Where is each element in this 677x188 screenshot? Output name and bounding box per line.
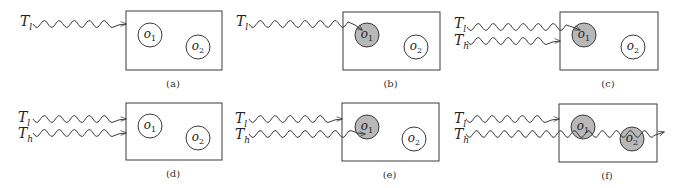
panel-caption-a: (a) — [166, 78, 180, 89]
object-label: o1 — [361, 27, 373, 43]
transaction-label: Th — [454, 126, 469, 145]
object-subscript: 1 — [151, 125, 156, 134]
transaction-label: Tl — [20, 13, 32, 32]
transaction-name: T — [454, 110, 463, 126]
object-subscript: 1 — [151, 34, 156, 43]
transaction-arrow-Th — [467, 38, 560, 45]
transaction-arrow-Tl — [33, 116, 126, 123]
transaction-subscript: h — [463, 135, 469, 145]
panel-caption-f: (f) — [601, 170, 613, 181]
transaction-subscript: l — [245, 22, 248, 32]
transaction-arrow-Th — [249, 131, 365, 138]
object-subscript: 2 — [634, 46, 639, 55]
transaction-name: T — [235, 126, 244, 142]
transaction-subscript: h — [27, 134, 33, 144]
transaction-name: T — [18, 109, 27, 125]
transaction-name: T — [235, 110, 244, 126]
object-label: o2 — [408, 131, 420, 147]
object-label: o2 — [626, 131, 638, 147]
object-label: o1 — [144, 27, 156, 43]
panel-caption-e: (e) — [383, 169, 397, 180]
object-subscript: 2 — [417, 46, 422, 55]
object-label: o2 — [192, 130, 204, 146]
object-label: o2 — [627, 39, 639, 55]
object-label: o1 — [144, 118, 156, 134]
panel-caption-b: (b) — [383, 78, 397, 89]
object-subscript: 2 — [199, 137, 204, 146]
object-subscript: 2 — [633, 138, 638, 147]
object-subscript: 1 — [585, 34, 590, 43]
object-subscript: 2 — [415, 138, 420, 147]
object-label: o1 — [577, 119, 589, 135]
transaction-label: Th — [454, 32, 469, 51]
transaction-arrow-Th — [33, 130, 126, 137]
transaction-arrow-Tl — [249, 116, 342, 123]
diagram-svg — [0, 0, 677, 188]
object-subscript: 1 — [584, 126, 589, 135]
object-label: o2 — [410, 39, 422, 55]
panel-caption-d: (d) — [166, 168, 180, 179]
transaction-label: Tl — [454, 15, 466, 34]
panel-caption-c: (c) — [601, 78, 614, 89]
transaction-name: T — [454, 126, 463, 142]
transaction-subscript: l — [29, 22, 32, 32]
transaction-arrow-Tl — [249, 21, 362, 31]
object-label: o1 — [578, 27, 590, 43]
object-subscript: 1 — [368, 126, 373, 135]
transaction-arrow-Tl — [467, 24, 580, 31]
transaction-arrow-Tl — [33, 21, 126, 28]
transaction-name: T — [18, 125, 27, 141]
object-subscript: 2 — [199, 46, 204, 55]
transaction-label: Th — [235, 126, 250, 145]
transaction-arrow-Tl — [466, 116, 559, 123]
transaction-label: Tl — [236, 13, 248, 32]
transaction-name: T — [20, 13, 29, 29]
figure-canvas: o1o2Tl(a)o1o2Tl(b)o1o2TlTh(c)o1o2TlTh(d)… — [0, 0, 677, 188]
transaction-name: T — [454, 32, 463, 48]
object-subscript: 1 — [368, 34, 373, 43]
transaction-subscript: h — [244, 135, 250, 145]
object-label: o1 — [361, 119, 373, 135]
transaction-name: T — [454, 15, 463, 31]
transaction-name: T — [236, 13, 245, 29]
transaction-subscript: h — [463, 41, 469, 51]
transaction-label: Th — [18, 125, 33, 144]
object-label: o2 — [192, 39, 204, 55]
